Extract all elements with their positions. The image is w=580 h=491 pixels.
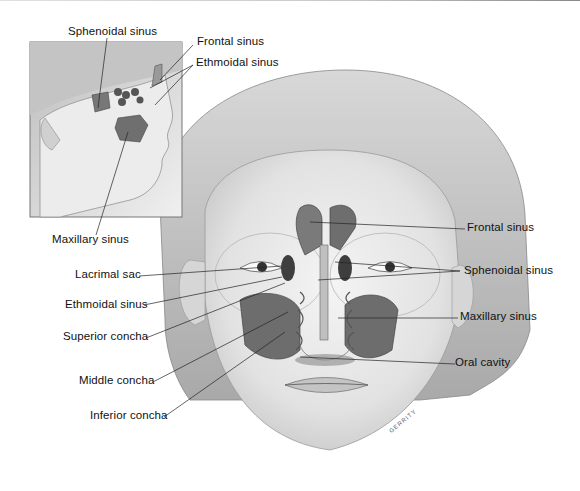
label-ethmoidal-sinus: Ethmoidal sinus xyxy=(65,298,148,310)
label-oral-cavity: Oral cavity xyxy=(455,356,510,368)
label-inferior-concha: Inferior concha xyxy=(90,409,168,421)
front-head xyxy=(160,70,530,450)
label-middle-concha: Middle concha xyxy=(79,374,154,386)
inset-label-sphenoidal-sinus: Sphenoidal sinus xyxy=(68,25,157,37)
inset-lateral-view xyxy=(30,42,182,217)
label-lacrimal-sac: Lacrimal sac xyxy=(75,268,141,280)
label-frontal-sinus: Frontal sinus xyxy=(467,221,534,233)
label-superior-concha: Superior concha xyxy=(63,330,148,342)
sinus-illustration xyxy=(0,0,580,491)
inset-label-ethmoidal-sinus: Ethmoidal sinus xyxy=(196,56,279,68)
label-sphenoidal-sinus: Sphenoidal sinus xyxy=(464,264,553,276)
label-maxillary-sinus: Maxillary sinus xyxy=(460,310,537,322)
inset-label-frontal-sinus: Frontal sinus xyxy=(197,35,264,47)
inset-label-maxillary-sinus: Maxillary sinus xyxy=(52,233,129,245)
